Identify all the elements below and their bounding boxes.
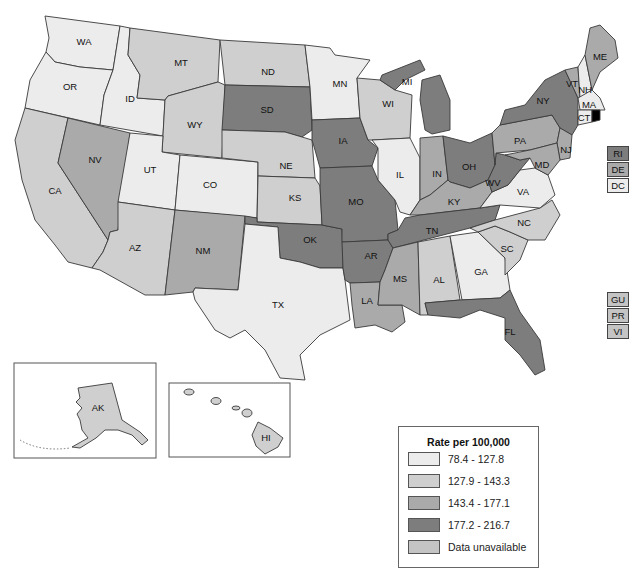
hawaii-inset: HI	[169, 383, 290, 457]
label-VT: VT	[566, 78, 578, 89]
island-molokai	[232, 406, 240, 410]
label-FL: FL	[504, 326, 515, 337]
label-WV: WV	[485, 177, 501, 188]
label-WA: WA	[77, 36, 93, 47]
label-TX: TX	[272, 299, 285, 310]
label-WY: WY	[187, 119, 203, 130]
label-MN: MN	[333, 78, 348, 89]
label-SD: SD	[260, 104, 273, 115]
label-NC: NC	[517, 217, 531, 228]
legend-label: 177.2 - 216.7	[448, 519, 510, 531]
label-MT: MT	[174, 57, 188, 68]
label-NH: NH	[578, 84, 592, 95]
label-CT: CT	[578, 112, 591, 123]
label-ME: ME	[593, 51, 607, 62]
label-NJ: NJ	[560, 144, 572, 155]
label-VA: VA	[517, 186, 530, 197]
territory-PR[interactable]: PR	[607, 308, 629, 323]
map-legend: Rate per 100,000 78.4 - 127.8 127.9 - 14…	[398, 426, 539, 568]
legend-item: 143.4 - 177.1	[408, 492, 538, 514]
label-LA: LA	[361, 295, 373, 306]
label-NV: NV	[88, 154, 102, 165]
label-NM: NM	[196, 245, 211, 256]
label-MA: MA	[582, 99, 597, 110]
small-state-DE[interactable]: DE	[607, 162, 629, 177]
label-CA: CA	[48, 185, 62, 196]
territory-VI[interactable]: VI	[607, 324, 629, 339]
label-UT: UT	[144, 164, 157, 175]
legend-label: Data unavailable	[448, 541, 526, 553]
legend-swatch	[408, 518, 440, 532]
alaska-inset: AK	[14, 363, 156, 458]
legend-label: 78.4 - 127.8	[448, 453, 504, 465]
legend-swatch	[408, 496, 440, 510]
label-OR: OR	[63, 81, 77, 92]
territory-GU[interactable]: GU	[607, 292, 629, 307]
legend-label: 143.4 - 177.1	[448, 497, 510, 509]
label-OH: OH	[462, 161, 476, 172]
small-state-DC[interactable]: DC	[607, 178, 629, 193]
label-TN: TN	[426, 225, 439, 236]
island-maui	[242, 409, 252, 417]
label-MS: MS	[393, 273, 407, 284]
legend-swatch	[408, 540, 440, 554]
label-ID: ID	[125, 93, 135, 104]
state-ND[interactable]	[220, 40, 310, 87]
label-IN: IN	[432, 168, 442, 179]
state-FL[interactable]	[425, 290, 545, 375]
label-IL: IL	[396, 169, 404, 180]
label-AZ: AZ	[129, 242, 141, 253]
label-KY: KY	[448, 196, 461, 207]
legend-title: Rate per 100,000	[399, 436, 538, 448]
island-kauai	[184, 389, 194, 395]
legend-label: 127.9 - 143.3	[448, 475, 510, 487]
label-ND: ND	[261, 66, 275, 77]
label-NY: NY	[536, 95, 550, 106]
label-PA: PA	[514, 135, 527, 146]
state-RI[interactable]	[592, 110, 600, 122]
label-CO: CO	[203, 179, 217, 190]
legend-item: 78.4 - 127.8	[408, 448, 538, 470]
label-WI: WI	[382, 98, 394, 109]
small-state-RI[interactable]: RI	[607, 146, 629, 161]
label-MD: MD	[535, 159, 550, 170]
label-AK: AK	[92, 402, 105, 413]
label-MI: MI	[402, 76, 413, 87]
label-HI: HI	[261, 432, 271, 443]
label-AR: AR	[364, 250, 377, 261]
label-NE: NE	[279, 160, 292, 171]
us-choropleth-map: WA OR ID MT WY CA NV UT CO AZ NM ND SD N…	[0, 0, 637, 578]
label-MO: MO	[348, 196, 363, 207]
legend-item: 177.2 - 216.7	[408, 514, 538, 536]
label-OK: OK	[303, 234, 317, 245]
legend-swatch	[408, 452, 440, 466]
label-IA: IA	[339, 135, 349, 146]
legend-swatch	[408, 474, 440, 488]
label-KS: KS	[289, 192, 302, 203]
state-WI[interactable]	[357, 78, 412, 140]
island-oahu	[211, 398, 221, 405]
label-AL: AL	[433, 274, 445, 285]
label-GA: GA	[474, 266, 488, 277]
label-SC: SC	[500, 243, 513, 254]
legend-item: Data unavailable	[408, 536, 538, 558]
legend-item: 127.9 - 143.3	[408, 470, 538, 492]
